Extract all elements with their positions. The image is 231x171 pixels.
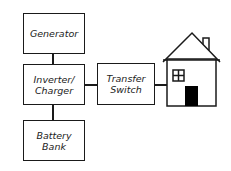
house-icon xyxy=(0,0,231,171)
roof xyxy=(163,33,220,62)
door-icon xyxy=(185,86,198,106)
